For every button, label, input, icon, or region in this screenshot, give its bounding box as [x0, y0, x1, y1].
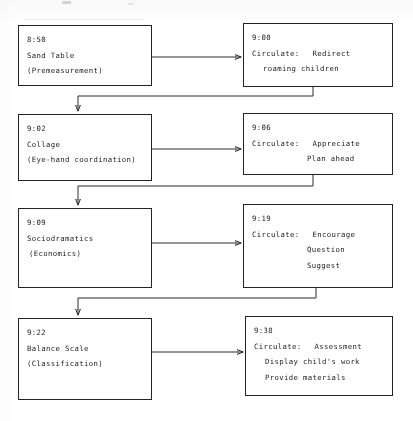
teacher-action-2: roaming children: [244, 61, 392, 77]
edge-t1-a2: [78, 87, 313, 111]
teacher-action-primary: Circulate:Assessment: [246, 339, 392, 355]
scan-artifact: [24, 19, 144, 20]
teacher-time: 9:06: [244, 120, 392, 136]
activity-time: 9:02: [19, 121, 151, 137]
edge-t3-a4: [78, 288, 316, 315]
activity-focus: (Eye-hand coordination): [19, 152, 151, 168]
teacher-action-primary: Circulate:Redirect: [244, 46, 392, 62]
teacher-action-label: Circulate:: [252, 49, 299, 58]
activity-box-4[interactable]: 9:22 Balance Scale (Classification): [18, 318, 152, 400]
scan-artifact: [128, 3, 134, 5]
teacher-action-1: Redirect: [299, 49, 350, 58]
teacher-action-2: Display child's work: [246, 354, 392, 370]
teacher-action-1: Appreciate: [299, 139, 359, 148]
teacher-box-1[interactable]: 9:00 Circulate:Redirect roaming children: [243, 23, 393, 87]
activity-time: 9:09: [19, 215, 151, 231]
teacher-action-1: Encourage: [299, 230, 355, 239]
activity-name: Sociodramatics: [19, 231, 151, 247]
teacher-time: 9:19: [244, 211, 392, 227]
teacher-action-primary: Circulate:Encourage: [244, 227, 392, 243]
teacher-action-3: Provide materials: [246, 370, 392, 386]
activity-focus: (Economics): [19, 246, 151, 262]
activity-focus: (Classification): [19, 356, 151, 372]
teacher-box-2[interactable]: 9:06 Circulate:Appreciate Plan ahead: [243, 113, 393, 175]
teacher-box-4[interactable]: 9:38 Circulate:Assessment Display child'…: [245, 316, 393, 396]
activity-box-3[interactable]: 9:09 Sociodramatics (Economics): [18, 208, 152, 288]
activity-time: 8:50: [19, 32, 151, 48]
activity-box-1[interactable]: 8:50 Sand Table (Premeasurement): [18, 25, 152, 86]
activity-time: 9:22: [19, 325, 151, 341]
teacher-action-label: Circulate:: [254, 342, 301, 351]
teacher-action-label: Circulate:: [252, 230, 299, 239]
teacher-time: 9:00: [244, 30, 392, 46]
activity-focus: (Premeasurement): [19, 63, 151, 79]
scan-artifact: [62, 1, 71, 4]
teacher-action-3: Suggest: [244, 258, 392, 274]
activity-box-2[interactable]: 9:02 Collage (Eye-hand coordination): [18, 114, 152, 181]
teacher-action-primary: Circulate:Appreciate: [244, 136, 392, 152]
activity-name: Collage: [19, 137, 151, 153]
teacher-action-2: Plan ahead: [244, 151, 392, 167]
teacher-action-2: Question: [244, 242, 392, 258]
teacher-time: 9:38: [246, 323, 392, 339]
flowchart-canvas: 8:50 Sand Table (Premeasurement) 9:00 Ci…: [0, 0, 413, 421]
activity-name: Sand Table: [19, 48, 151, 64]
teacher-action-1: Assessment: [301, 342, 361, 351]
activity-name: Balance Scale: [19, 341, 151, 357]
teacher-box-3[interactable]: 9:19 Circulate:Encourage Question Sugges…: [243, 204, 393, 288]
teacher-action-label: Circulate:: [252, 139, 299, 148]
